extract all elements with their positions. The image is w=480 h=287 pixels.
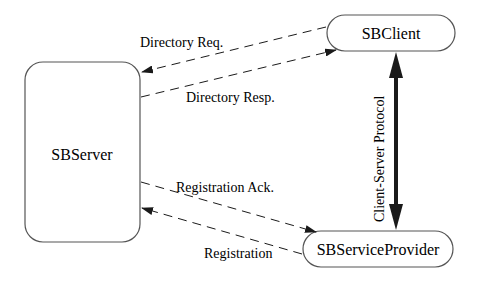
node-sbclient-label: SBClient — [362, 25, 421, 42]
edge-registration-label: Registration — [204, 246, 272, 261]
node-sbserver-label: SBServer — [51, 146, 113, 163]
edge-directory-req: Directory Req. — [140, 27, 326, 72]
edge-directory-resp-label: Directory Resp. — [186, 90, 275, 105]
arrow-up-icon — [389, 52, 403, 78]
node-sbserver: SBServer — [25, 62, 140, 242]
edge-client-server-protocol: Client-Server Protocol — [372, 52, 403, 230]
arrow-down-icon — [389, 204, 403, 230]
edge-client-server-protocol-label: Client-Server Protocol — [372, 96, 387, 222]
node-sbserviceprovider-label: SBServiceProvider — [317, 241, 440, 258]
diagram-canvas: SBServer SBClient SBServiceProvider Dire… — [0, 0, 480, 287]
edge-directory-resp: Directory Resp. — [141, 50, 336, 105]
edge-registration-ack: Registration Ack. — [141, 180, 316, 232]
node-sbclient: SBClient — [327, 15, 455, 51]
node-sbserviceprovider: SBServiceProvider — [303, 231, 453, 267]
edge-registration: Registration — [142, 208, 302, 261]
edge-directory-req-label: Directory Req. — [140, 35, 223, 50]
edge-registration-ack-label: Registration Ack. — [176, 180, 274, 195]
